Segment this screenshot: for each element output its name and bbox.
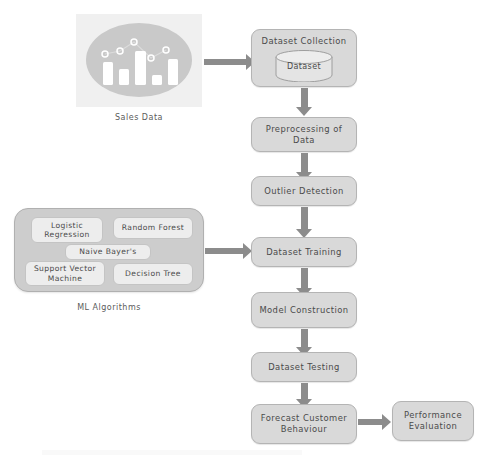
node-forecast-label: Forecast Customer Behaviour [256,413,352,435]
page-artifact [42,450,302,455]
chart-bar [152,75,162,85]
dataset-cylinder-label: Dataset [274,62,334,71]
ml-box-support-vector-machine[interactable]: Support Vector Machine [25,261,105,286]
sales-data-image [76,14,202,107]
ml-box-naive-bayers[interactable]: Naive Bayer's [65,244,151,260]
chart-bar [168,59,178,85]
chart-bar [135,51,146,85]
dataset-cylinder: Dataset [274,50,334,86]
node-forecast-customer-behaviour[interactable]: Forecast Customer Behaviour [251,404,357,444]
node-outlier-detection-label: Outlier Detection [256,186,352,197]
node-dataset-training-label: Dataset Training [256,247,352,258]
sales-data-illustration [76,14,202,107]
node-preprocessing[interactable]: Preprocessing of Data [251,117,357,152]
flowchart-canvas: Sales Data Dataset Collection Dataset Pr… [0,0,481,458]
node-dataset-collection-label: Dataset Collection [256,36,352,47]
ml-box-label: Naive Bayer's [79,247,136,257]
node-model-construction[interactable]: Model Construction [251,292,357,328]
node-model-construction-label: Model Construction [256,305,352,316]
node-dataset-testing[interactable]: Dataset Testing [251,352,357,382]
ml-box-label: Logistic Regression [34,221,100,240]
ml-algorithms-group: Logistic Regression Random Forest Naive … [14,208,204,292]
ml-box-random-forest[interactable]: Random Forest [113,217,193,239]
ml-algorithms-caption: ML Algorithms [14,303,204,312]
chart-bar [103,62,113,85]
node-performance-evaluation-label: Performance Evaluation [397,410,469,432]
ml-box-label: Random Forest [122,223,184,233]
chart-bar [119,69,129,85]
node-dataset-testing-label: Dataset Testing [256,362,352,373]
ml-box-label: Decision Tree [125,269,181,279]
ml-box-decision-tree[interactable]: Decision Tree [113,263,193,285]
ml-box-label: Support Vector Machine [28,264,102,283]
node-preprocessing-label: Preprocessing of Data [256,124,352,146]
node-performance-evaluation[interactable]: Performance Evaluation [392,401,474,441]
node-outlier-detection[interactable]: Outlier Detection [251,176,357,206]
ml-box-logistic-regression[interactable]: Logistic Regression [31,217,103,243]
sales-data-caption: Sales Data [76,113,202,122]
node-dataset-training[interactable]: Dataset Training [251,237,357,267]
